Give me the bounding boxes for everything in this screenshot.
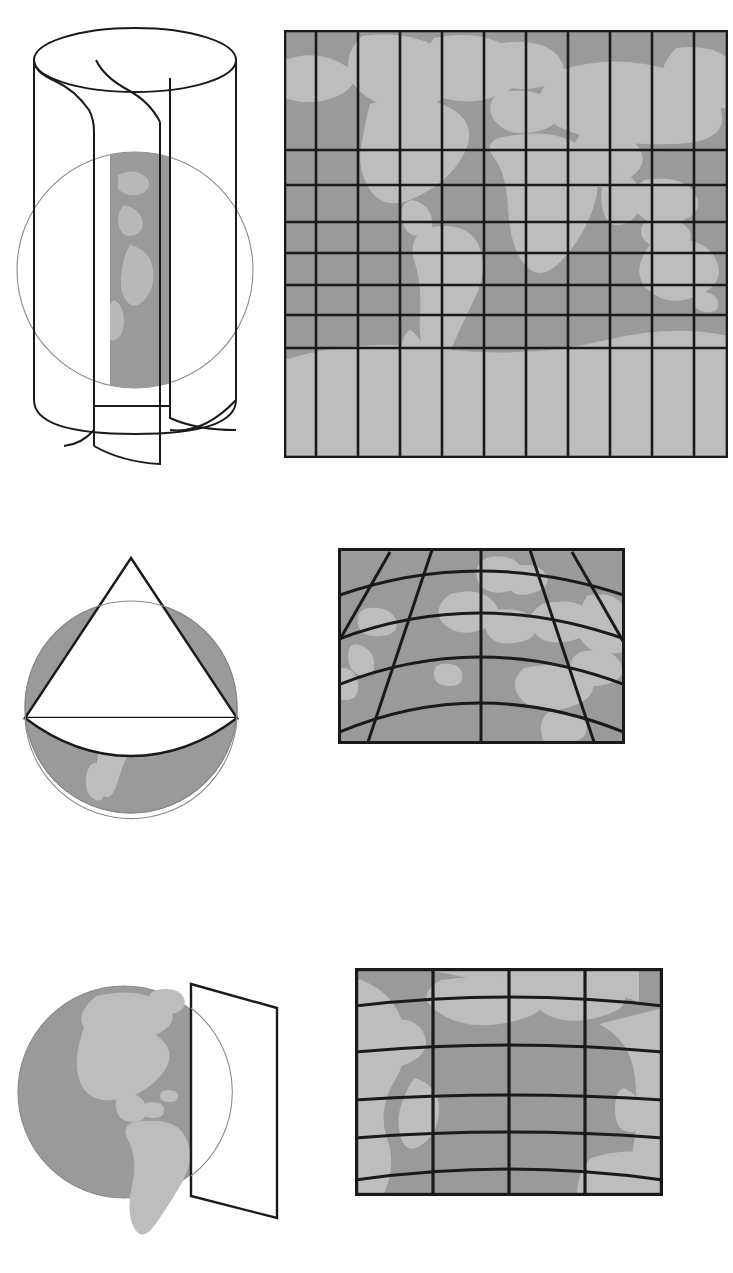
plane-surface-svg <box>0 950 320 1240</box>
cone-surface-panel <box>0 525 280 845</box>
cylindrical-map-panel <box>284 30 728 458</box>
conic-map-svg <box>338 548 625 744</box>
map-projection-figure <box>0 0 733 1273</box>
cylinder-top-ellipse <box>34 28 236 92</box>
cone-surface-svg <box>0 525 280 845</box>
cylinder-surface-panel <box>0 0 270 480</box>
planar-map-svg <box>355 968 663 1196</box>
cylinder-surface-svg <box>0 0 270 480</box>
planar-map-panel <box>355 968 663 1196</box>
cylindrical-map-svg <box>284 30 728 458</box>
cylinder-shell <box>34 60 236 434</box>
conic-map-panel <box>338 548 625 744</box>
plane-surface-panel <box>0 950 320 1240</box>
